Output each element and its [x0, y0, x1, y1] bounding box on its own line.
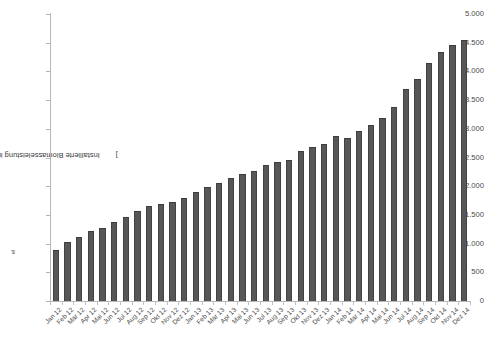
- y-tick-mark: [46, 186, 50, 187]
- x-tick-mark: [120, 301, 121, 305]
- bar: [449, 45, 456, 301]
- bar: [76, 237, 83, 301]
- x-tick-mark: [307, 301, 308, 305]
- x-tick-mark: [377, 301, 378, 305]
- bar: [193, 192, 200, 301]
- bar: [379, 118, 386, 301]
- y-tick-mark: [46, 14, 50, 15]
- x-tick-mark: [132, 301, 133, 305]
- bar: [274, 162, 281, 301]
- y-tick-mark: [46, 272, 50, 273]
- y-tick-mark: [46, 244, 50, 245]
- x-tick-mark: [435, 301, 436, 305]
- bar: [414, 79, 421, 301]
- y-tick-mark: [46, 100, 50, 101]
- bar: [216, 183, 223, 301]
- bar: [169, 202, 176, 301]
- x-tick-mark: [388, 301, 389, 305]
- x-tick-mark: [260, 301, 261, 305]
- x-tick-mark: [447, 301, 448, 305]
- x-tick-mark: [190, 301, 191, 305]
- x-tick-mark: [62, 301, 63, 305]
- bar: [204, 187, 211, 301]
- bar: [309, 147, 316, 301]
- bar: [181, 198, 188, 301]
- bar: [298, 151, 305, 301]
- bar: [158, 204, 165, 301]
- bar: [438, 52, 445, 301]
- x-tick-mark: [318, 301, 319, 305]
- y-axis-title-suffix: ]: [0, 151, 117, 160]
- bar: [368, 125, 375, 301]
- x-tick-mark: [458, 301, 459, 305]
- y-tick-mark: [46, 215, 50, 216]
- bar: [263, 165, 270, 301]
- y-tick-mark: [46, 158, 50, 159]
- x-tick-mark: [412, 301, 413, 305]
- bar: [123, 217, 130, 301]
- bar: [321, 144, 328, 301]
- bar: [286, 160, 293, 301]
- x-tick-mark: [178, 301, 179, 305]
- bar: [344, 138, 351, 301]
- x-tick-mark: [73, 301, 74, 305]
- x-tick-mark: [97, 301, 98, 305]
- x-tick-mark: [272, 301, 273, 305]
- bar: [251, 171, 258, 301]
- bar: [403, 89, 410, 301]
- x-tick-mark: [143, 301, 144, 305]
- x-tick-mark: [237, 301, 238, 305]
- y-tick-mark: [46, 129, 50, 130]
- bar-chart: Installierte Biomasseleistung in der Dir…: [0, 0, 484, 339]
- x-tick-mark: [50, 301, 51, 305]
- x-tick-mark: [167, 301, 168, 305]
- x-tick-mark: [400, 301, 401, 305]
- x-tick-mark: [248, 301, 249, 305]
- y-axis-title-subscript: el: [9, 249, 15, 253]
- bar: [146, 206, 153, 301]
- y-tick-label: 5.000: [440, 10, 484, 18]
- x-tick-mark: [423, 301, 424, 305]
- x-tick-mark: [353, 301, 354, 305]
- x-tick-mark: [108, 301, 109, 305]
- y-axis-line: [50, 13, 51, 302]
- bar: [426, 63, 433, 301]
- x-tick-mark: [330, 301, 331, 305]
- x-tick-mark: [225, 301, 226, 305]
- x-tick-mark: [202, 301, 203, 305]
- bar: [239, 174, 246, 301]
- x-tick-mark: [470, 301, 471, 305]
- bar: [391, 107, 398, 301]
- x-tick-mark: [365, 301, 366, 305]
- bar: [88, 231, 95, 301]
- x-tick-mark: [342, 301, 343, 305]
- bar: [53, 250, 60, 301]
- x-tick-mark: [283, 301, 284, 305]
- x-tick-mark: [155, 301, 156, 305]
- x-tick-mark: [85, 301, 86, 305]
- bar: [333, 136, 340, 301]
- bar: [228, 178, 235, 301]
- x-tick-mark: [295, 301, 296, 305]
- bar: [111, 222, 118, 301]
- y-tick-mark: [46, 43, 50, 44]
- x-tick-mark: [213, 301, 214, 305]
- bar: [134, 211, 141, 301]
- bar: [461, 40, 468, 301]
- bar: [64, 242, 71, 301]
- bar: [356, 131, 363, 301]
- y-axis-title: Installierte Biomasseleistung in der Dir…: [0, 0, 20, 310]
- y-tick-mark: [46, 71, 50, 72]
- bar: [99, 228, 106, 301]
